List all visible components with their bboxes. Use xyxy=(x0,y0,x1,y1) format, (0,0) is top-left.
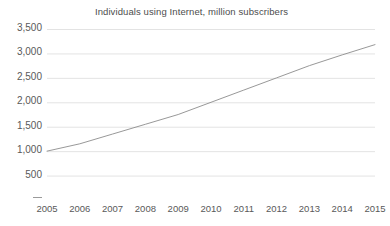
x-tick-label-2009: 2009 xyxy=(161,203,195,214)
y-axis-zero-tick xyxy=(33,197,42,198)
series-line-individuals-using-internet xyxy=(47,45,375,152)
y-tick-label-3,000: 3,000 xyxy=(0,46,42,57)
x-tick-label-2014: 2014 xyxy=(325,203,359,214)
x-tick-label-2013: 2013 xyxy=(292,203,326,214)
x-tick-label-2012: 2012 xyxy=(260,203,294,214)
x-tick-label-2006: 2006 xyxy=(63,203,97,214)
y-tick-label-1,000: 1,000 xyxy=(0,144,42,155)
y-tick-label-2,000: 2,000 xyxy=(0,95,42,106)
x-tick-label-2007: 2007 xyxy=(96,203,130,214)
x-tick-label-2008: 2008 xyxy=(128,203,162,214)
y-tick-label-1,500: 1,500 xyxy=(0,120,42,131)
gridlines-group xyxy=(47,30,375,177)
y-tick-label-2,500: 2,500 xyxy=(0,71,42,82)
x-tick-label-2011: 2011 xyxy=(227,203,261,214)
y-tick-label-500: 500 xyxy=(0,169,42,180)
x-tick-label-2010: 2010 xyxy=(194,203,228,214)
x-tick-label-2005: 2005 xyxy=(30,203,64,214)
y-tick-label-3,500: 3,500 xyxy=(0,22,42,33)
x-tick-label-2015: 2015 xyxy=(358,203,390,214)
